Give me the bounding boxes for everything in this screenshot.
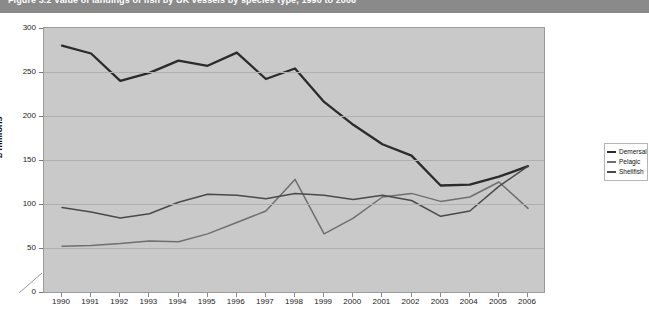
x-axis-tick (207, 293, 208, 297)
x-axis-tick-label: 1991 (81, 297, 99, 306)
axis-break-mark (18, 272, 44, 294)
y-axis-tick-label: 200 (23, 111, 36, 120)
y-axis-tick-label: 250 (23, 67, 36, 76)
y-axis-tick-label: 300 (23, 23, 36, 32)
legend-color-swatch (607, 161, 616, 163)
x-axis-tick-label: 1990 (52, 297, 70, 306)
y-axis-tick (39, 248, 43, 249)
x-axis-tick (178, 293, 179, 297)
y-axis-tick-label: 100 (23, 199, 36, 208)
legend-label: Pelagic (619, 157, 640, 166)
x-axis-tick (440, 293, 441, 297)
grid-line (44, 204, 544, 205)
chart-legend: DemersalPelagicShellfish (604, 143, 648, 181)
grid-line (44, 160, 544, 161)
x-axis-tick-label: 1994 (169, 297, 187, 306)
x-axis-tick (352, 293, 353, 297)
grid-line (44, 72, 544, 73)
legend-item[interactable]: Pelagic (607, 157, 645, 166)
legend-item[interactable]: Shellfish (607, 167, 645, 176)
legend-color-swatch (607, 151, 616, 153)
chart-figure: Figure 3.2 Value of landings of fish by … (0, 0, 649, 315)
y-axis-tick (39, 72, 43, 73)
y-axis-tick (39, 28, 43, 29)
x-axis-tick (323, 293, 324, 297)
y-axis-tick (39, 160, 43, 161)
x-axis-tick-label: 1997 (256, 297, 274, 306)
x-axis-tick-label: 2003 (431, 297, 449, 306)
x-axis-tick (148, 293, 149, 297)
legend-label: Demersal (619, 147, 647, 156)
x-axis-tick (119, 293, 120, 297)
y-axis: £ millions 050100150200250300 (0, 0, 43, 300)
x-axis-tick (236, 293, 237, 297)
x-axis-tick (61, 293, 62, 297)
x-axis-tick-label: 2000 (343, 297, 361, 306)
figure-title-bar: Figure 3.2 Value of landings of fish by … (0, 0, 649, 13)
grid-line (44, 116, 544, 117)
x-axis-tick-label: 2006 (518, 297, 536, 306)
x-axis-tick-label: 1996 (227, 297, 245, 306)
legend-item[interactable]: Demersal (607, 147, 645, 156)
x-axis-tick-label: 1995 (198, 297, 216, 306)
legend-label: Shellfish (619, 167, 644, 176)
x-axis-tick-label: 1998 (285, 297, 303, 306)
x-axis-tick (469, 293, 470, 297)
x-axis-tick-label: 2002 (402, 297, 420, 306)
y-axis-title: £ millions (0, 116, 4, 158)
x-axis-tick-label: 1992 (110, 297, 128, 306)
y-axis-tick (39, 204, 43, 205)
x-axis-tick (498, 293, 499, 297)
x-axis-tick (90, 293, 91, 297)
x-axis-tick (294, 293, 295, 297)
x-axis: 1990199119921993199419951996199719981999… (43, 297, 545, 311)
x-axis-tick (411, 293, 412, 297)
legend-color-swatch (607, 171, 616, 173)
plot-area (43, 27, 545, 293)
x-axis-tick-label: 1993 (139, 297, 157, 306)
x-axis-tick-label: 1999 (314, 297, 332, 306)
series-line-shellfish (62, 166, 528, 218)
x-axis-tick-label: 2005 (489, 297, 507, 306)
y-axis-tick (39, 116, 43, 117)
figure-title: Figure 3.2 Value of landings of fish by … (8, 0, 356, 5)
x-axis-tick (381, 293, 382, 297)
y-axis-tick-label: 150 (23, 155, 36, 164)
x-axis-tick (265, 293, 266, 297)
y-axis-tick-label: 50 (27, 243, 36, 252)
x-axis-tick-label: 2004 (460, 297, 478, 306)
x-axis-tick (527, 293, 528, 297)
x-axis-tick-label: 2001 (372, 297, 390, 306)
grid-line (44, 248, 544, 249)
